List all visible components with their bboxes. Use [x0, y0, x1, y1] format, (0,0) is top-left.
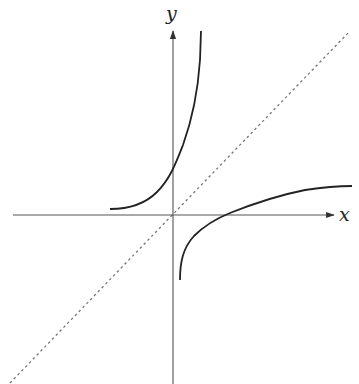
function-inverse-diagram: x y	[0, 0, 359, 384]
logarithm-curve	[180, 186, 352, 280]
reflection-line-y-equals-x	[10, 31, 350, 383]
x-axis-label: x	[339, 203, 350, 225]
exponential-curve	[110, 31, 201, 209]
y-axis-label: y	[165, 2, 177, 24]
